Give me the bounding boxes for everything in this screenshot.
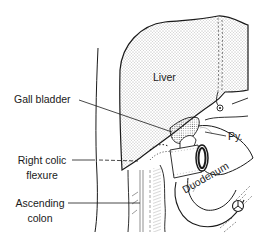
label-ascending-colon-line2: colon — [12, 212, 68, 224]
label-pylorus: Py. — [228, 130, 242, 142]
label-right-colic-flexure-line1: Right colic — [12, 154, 72, 166]
vessel-symbol — [233, 201, 244, 212]
label-right-colic-flexure: Right colic flexure — [12, 154, 72, 181]
leader-pylorus — [205, 132, 226, 136]
label-ascending-colon: Ascending colon — [12, 197, 68, 224]
label-ascending-colon-line1: Ascending — [12, 197, 68, 209]
ascending-colon-shape — [128, 165, 165, 232]
body-wall-line — [95, 48, 98, 232]
label-gall-bladder: Gall bladder — [14, 93, 71, 105]
anatomy-figure: Liver Gall bladder Py. Right colic flexu… — [0, 0, 259, 238]
label-liver: Liver — [153, 71, 176, 83]
label-right-colic-flexure-line2: flexure — [12, 169, 72, 181]
